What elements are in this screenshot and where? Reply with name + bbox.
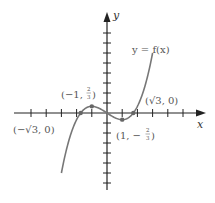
- function-graph: x y y = f(x) (−√3, 0) (−1, 2 3 ) (1, − 2…: [0, 0, 215, 203]
- local-max-label-text: (−1,: [61, 89, 83, 100]
- local-max-frac-den: 3: [87, 94, 91, 100]
- point-label-local-min: (1, − 2 3 ): [116, 127, 155, 141]
- local-min-label-text: (1, −: [116, 130, 141, 141]
- local-max-close-paren: ): [92, 89, 96, 100]
- x-axis-arrow-icon: [196, 110, 206, 117]
- point-marker: [90, 104, 94, 108]
- y-axis-arrow-icon: [104, 12, 111, 22]
- point-label-neg-root: (−√3, 0): [13, 124, 55, 135]
- point-label-pos-root: (√3, 0): [145, 95, 178, 106]
- x-axis-label: x: [197, 118, 204, 131]
- local-min-frac-num: 2: [146, 127, 150, 133]
- y-axis-label: y: [112, 9, 120, 22]
- curve-label: y = f(x): [131, 44, 170, 55]
- point-marker: [131, 111, 135, 115]
- local-max-frac-num: 2: [87, 86, 91, 92]
- local-min-close-paren: ): [151, 130, 155, 141]
- point-label-local-max: (−1, 2 3 ): [61, 86, 96, 100]
- point-marker: [78, 111, 82, 115]
- local-min-frac-den: 3: [146, 135, 150, 141]
- point-marker: [120, 117, 124, 121]
